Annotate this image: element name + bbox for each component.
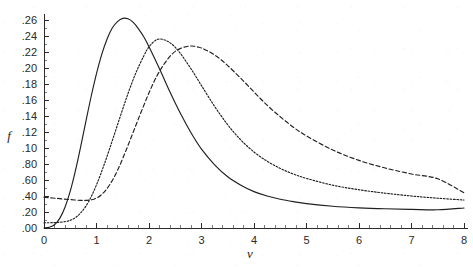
- x-tick-label: 6: [356, 234, 362, 246]
- x-tick-label: 1: [93, 234, 99, 246]
- y-axis-title: f: [7, 128, 13, 143]
- y-tick-label: .20: [22, 62, 37, 74]
- curve-dotted: [44, 39, 464, 223]
- y-tick-label: .16: [22, 94, 37, 106]
- chart-curves: [44, 18, 464, 228]
- x-tick-label: 4: [251, 234, 257, 246]
- y-tick-label: .20: [22, 206, 37, 218]
- x-axis-title: v: [247, 246, 253, 261]
- x-axis-ticks: [44, 223, 464, 228]
- y-tick-label: .40: [22, 190, 37, 202]
- y-tick-label: .24: [22, 30, 37, 42]
- y-tick-label: .26: [22, 14, 37, 26]
- chart-figure: .26.24.22.20.18.16.14.12.10.80.60.40.20.…: [0, 0, 473, 267]
- x-tick-label: 7: [408, 234, 414, 246]
- x-tick-label: 2: [146, 234, 152, 246]
- y-tick-label: .14: [22, 110, 37, 122]
- y-tick-label: .12: [22, 126, 37, 138]
- x-axis-tick-labels: 012345678: [41, 234, 467, 246]
- y-tick-label: .80: [22, 158, 37, 170]
- x-tick-label: 0: [41, 234, 47, 246]
- x-tick-label: 3: [198, 234, 204, 246]
- y-axis-tick-labels: .26.24.22.20.18.16.14.12.10.80.60.40.20.…: [22, 14, 37, 234]
- y-tick-label: .22: [22, 46, 37, 58]
- curve-solid: [44, 18, 464, 228]
- y-tick-label: .10: [22, 142, 37, 154]
- curve-dashed: [44, 46, 464, 200]
- maxwell-speed-distribution-chart: .26.24.22.20.18.16.14.12.10.80.60.40.20.…: [0, 0, 473, 267]
- x-tick-label: 5: [303, 234, 309, 246]
- x-tick-label: 8: [461, 234, 467, 246]
- y-tick-label: .00: [22, 222, 37, 234]
- y-tick-label: .60: [22, 174, 37, 186]
- y-tick-label: .18: [22, 78, 37, 90]
